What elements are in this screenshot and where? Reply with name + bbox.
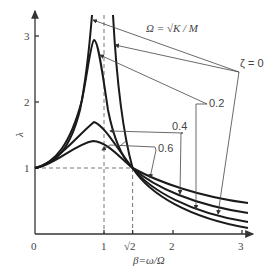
y-tick-3: 3: [24, 30, 30, 42]
y-axis-label: λ: [13, 132, 25, 138]
curves: [35, 15, 248, 228]
curve-zeta-0.6: [35, 141, 248, 203]
legend-zeta-0.6: 0.6: [158, 142, 173, 154]
x-axis-label: β=ω/Ω: [132, 254, 165, 266]
y-tick-1: 1: [24, 162, 30, 174]
x-tick-1: 1: [101, 240, 107, 252]
curve-zeta-0.4: [35, 122, 248, 213]
reference-lines: [35, 15, 133, 234]
x-tick-3: 3: [238, 240, 244, 252]
y-tick-2: 2: [24, 96, 30, 108]
x-tick-2: 2: [169, 240, 175, 252]
transmissibility-chart: 0 1 √2 2 3 1 2 3 λ β=ω/Ω Ω = √K / M ζ = …: [0, 0, 278, 272]
legend-zeta-0.2: 0.2: [209, 97, 224, 109]
x-tick-sqrt2: √2: [124, 240, 136, 252]
legend-zeta-0.4: 0.4: [172, 120, 187, 132]
formula-label: Ω = √K / M: [146, 22, 199, 34]
x-tick-0: 0: [31, 240, 37, 252]
legend-zeta-0: ζ = 0: [240, 57, 264, 69]
